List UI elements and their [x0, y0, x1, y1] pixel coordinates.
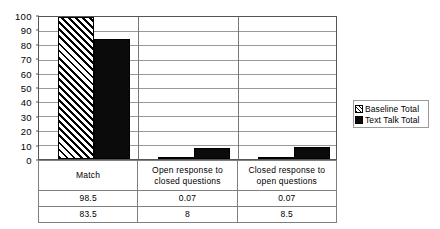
y-axis-tick-label: 80	[21, 39, 32, 50]
y-axis-tick-label: 0	[26, 155, 32, 166]
y-axis-tick-label: 30	[21, 111, 32, 122]
bar-texttalk-match	[94, 39, 130, 159]
table-header-cell-open-response: Open response to closed questions	[138, 161, 237, 191]
table-cell: 8.5	[237, 207, 336, 223]
y-axis-tick-label: 70	[21, 54, 32, 65]
table-cell: 98.5	[39, 191, 138, 207]
table-cell: 83.5	[39, 207, 138, 223]
table-header-cell-match: Match	[39, 161, 138, 191]
bar-group-container	[39, 17, 336, 159]
bar-baseline-closed-response	[258, 157, 294, 159]
table-row-baseline-total: 98.5 0.07 0.07	[39, 191, 337, 207]
plot-area	[38, 16, 337, 160]
bar-chart-figure: 100 90 80 70 60 50 40 30 20 10 0	[0, 0, 440, 229]
legend-item-text-talk-total: Text Talk Total	[355, 114, 426, 125]
y-axis-tick-label: 100	[15, 11, 32, 22]
y-axis-tick-label: 10	[21, 140, 32, 151]
table-cell: 8	[138, 207, 237, 223]
y-axis-tick-label: 20	[21, 126, 32, 137]
data-table: Match Open response to closed questions …	[38, 160, 337, 223]
bar-texttalk-closed-response	[294, 147, 330, 159]
bar-texttalk-open-response	[194, 148, 230, 160]
y-axis-tick-label: 40	[21, 97, 32, 108]
table-cell: 0.07	[138, 191, 237, 207]
y-axis-tick-label: 60	[21, 68, 32, 79]
y-axis-tick-label: 50	[21, 83, 32, 94]
legend-label: Text Talk Total	[365, 115, 420, 125]
table-row-text-talk-total: 83.5 8 8.5	[39, 207, 337, 223]
table-header-row: Match Open response to closed questions …	[39, 161, 337, 191]
table-header-cell-closed-response: Closed response to open questions	[237, 161, 336, 191]
legend-label: Baseline Total	[365, 104, 419, 114]
bar-baseline-open-response	[158, 157, 194, 159]
solid-swatch-icon	[355, 116, 363, 124]
legend-item-baseline-total: Baseline Total	[355, 103, 426, 114]
table-cell: 0.07	[237, 191, 336, 207]
y-axis: 100 90 80 70 60 50 40 30 20 10 0	[4, 10, 36, 166]
bar-baseline-match	[58, 17, 94, 159]
chart-legend: Baseline Total Text Talk Total	[353, 100, 429, 128]
hatched-swatch-icon	[355, 105, 363, 113]
y-axis-tick-label: 90	[21, 25, 32, 36]
